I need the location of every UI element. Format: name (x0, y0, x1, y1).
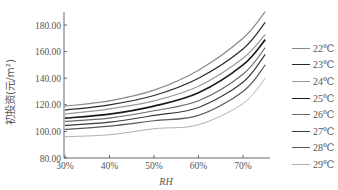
legend-label: 26℃ (313, 109, 334, 120)
series-line-24c (65, 34, 265, 114)
y-tick-label: 140.00 (35, 74, 61, 84)
x-axis-title: RH (158, 176, 173, 187)
legend-item: 27℃ (292, 123, 334, 140)
x-tick-label: 30% (56, 161, 74, 171)
legend-line-swatch (292, 81, 310, 82)
x-tick-label: 60% (190, 161, 208, 171)
legend-line-swatch (292, 114, 310, 115)
line-chart: 80.00100.00120.00140.00160.00180.00 30%4… (0, 0, 338, 190)
x-tick-label: 40% (101, 161, 119, 171)
legend-line-swatch (292, 48, 310, 49)
legend-item: 23℃ (292, 57, 334, 74)
y-tick-label: 160.00 (35, 47, 61, 57)
legend-label: 22℃ (313, 43, 334, 54)
legend-item: 28℃ (292, 140, 334, 157)
legend-item: 22℃ (292, 40, 334, 57)
legend-label: 23℃ (313, 59, 334, 70)
y-ticks: 80.00100.00120.00140.00160.00180.00 (35, 21, 67, 164)
legend-label: 29℃ (313, 159, 334, 170)
plot-area (65, 12, 265, 137)
series-line-27c (65, 54, 265, 125)
y-tick-label: 120.00 (35, 100, 61, 110)
legend-label: 25℃ (313, 93, 334, 104)
legend-line-swatch (292, 98, 310, 99)
series-line-29c (65, 78, 265, 137)
x-ticks: 30%40%50%60%70% (56, 155, 252, 171)
legend-label: 24℃ (313, 76, 334, 87)
legend-line-swatch (292, 64, 310, 65)
legend-item: 24℃ (292, 73, 334, 90)
x-tick-label: 50% (145, 161, 163, 171)
x-tick-label: 70% (234, 161, 252, 171)
legend-line-swatch (292, 147, 310, 148)
legend-label: 28℃ (313, 142, 334, 153)
legend-line-swatch (292, 164, 310, 165)
y-tick-label: 180.00 (35, 21, 61, 31)
y-tick-label: 100.00 (35, 127, 61, 137)
legend: 22℃23℃24℃25℃26℃27℃28℃29℃ (292, 40, 334, 173)
legend-item: 25℃ (292, 90, 334, 107)
legend-line-swatch (292, 131, 310, 132)
legend-item: 29℃ (292, 156, 334, 173)
y-axis-title: 初投资(元/m²) (4, 59, 16, 125)
legend-item: 26℃ (292, 106, 334, 123)
legend-label: 27℃ (313, 126, 334, 137)
